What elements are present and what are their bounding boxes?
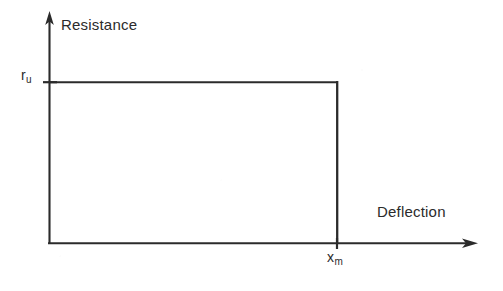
y-tick-label-ru: ru	[21, 68, 32, 85]
y-axis-label: Resistance	[61, 17, 137, 32]
x-axis-label: Deflection	[377, 204, 446, 219]
x-tick-label-xm: xm	[327, 250, 343, 267]
resistance-deflection-plot	[0, 0, 503, 291]
figure-container: Resistance Deflection ru xm	[0, 0, 503, 291]
x-tick-label-xm-base: x	[327, 249, 334, 265]
y-tick-label-ru-subscript: u	[26, 74, 32, 85]
x-tick-label-xm-subscript: m	[334, 256, 342, 267]
y-tick-label-ru-base: r	[21, 67, 26, 83]
